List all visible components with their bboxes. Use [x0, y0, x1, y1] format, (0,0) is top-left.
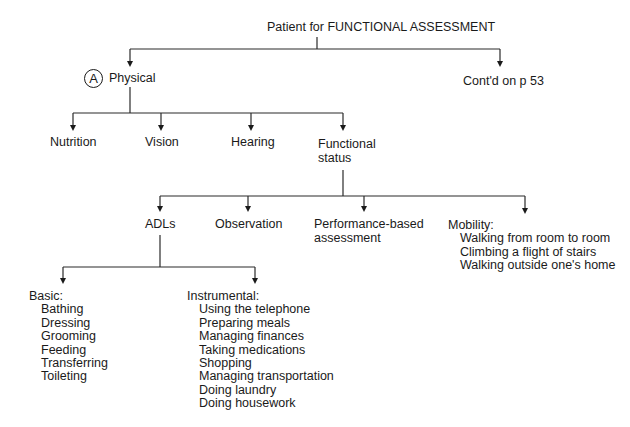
basic-label: Basic:	[29, 290, 108, 303]
arrowhead	[252, 278, 258, 284]
basic-item: Feeding	[29, 344, 108, 357]
instrumental-item: Shopping	[187, 357, 334, 370]
arrowhead	[127, 61, 133, 67]
performance-line2: assessment	[314, 231, 424, 245]
basic-item: Bathing	[29, 303, 108, 316]
arrowhead	[157, 206, 163, 212]
mobility-label: Mobility:	[448, 219, 615, 232]
functional-status-line1: Functional	[318, 137, 376, 151]
functional-status-line2: status	[318, 151, 376, 165]
basic-item: Dressing	[29, 317, 108, 330]
basic-item: Transferring	[29, 357, 108, 370]
mobility-item: Walking from room to room	[448, 232, 615, 245]
instrumental-item: Preparing meals	[187, 317, 334, 330]
instrumental-item: Using the telephone	[187, 303, 334, 316]
mobility-item: Walking outside one's home	[448, 259, 615, 272]
arrowhead	[70, 125, 76, 131]
mobility-node: Mobility: Walking from room to room Clim…	[448, 219, 615, 273]
arrowhead	[245, 206, 251, 212]
adls-node: ADLs	[145, 217, 176, 231]
nutrition-node: Nutrition	[50, 135, 97, 149]
instrumental-label: Instrumental:	[187, 290, 334, 303]
continued-node: Cont'd on p 53	[463, 74, 544, 88]
root-node: Patient for FUNCTIONAL ASSESSMENT	[267, 20, 495, 34]
arrowhead	[497, 61, 503, 67]
basic-item: Grooming	[29, 330, 108, 343]
arrowhead	[248, 125, 254, 131]
basic-item: Toileting	[29, 370, 108, 383]
performance-line1: Performance-based	[314, 217, 424, 231]
instrumental-item: Managing transportation	[187, 370, 334, 383]
arrowhead	[522, 208, 528, 214]
functional-status-node: Functional status	[318, 137, 376, 165]
physical-node: APhysical	[84, 69, 156, 88]
instrumental-item: Doing housework	[187, 397, 334, 410]
vision-node: Vision	[145, 135, 179, 149]
physical-label: Physical	[109, 71, 156, 85]
arrowhead	[60, 278, 66, 284]
arrowhead	[158, 125, 164, 131]
arrowhead	[340, 125, 346, 131]
mobility-item: Climbing a flight of stairs	[448, 246, 615, 259]
arrowhead	[361, 206, 367, 212]
instrumental-item: Managing finances	[187, 330, 334, 343]
performance-node: Performance-based assessment	[314, 217, 424, 245]
instrumental-adl-node: Instrumental: Using the telephone Prepar…	[187, 290, 334, 411]
instrumental-item: Doing laundry	[187, 384, 334, 397]
basic-adl-node: Basic: Bathing Dressing Grooming Feeding…	[29, 290, 108, 384]
hearing-node: Hearing	[231, 135, 275, 149]
instrumental-item: Taking medications	[187, 344, 334, 357]
observation-node: Observation	[215, 217, 282, 231]
marker-a-icon: A	[84, 69, 103, 88]
